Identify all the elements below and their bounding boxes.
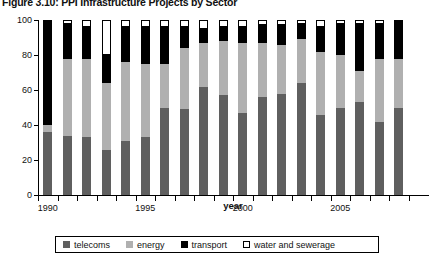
x-axis-tick-mark [350, 196, 351, 201]
bar-2007 [375, 20, 384, 195]
bar-segment-transport-2001 [258, 25, 267, 43]
bar-segment-transport-1999 [219, 27, 228, 41]
bar-segment-energy-1993 [102, 83, 111, 150]
chart-legend: telecomsenergytransportwater and sewerag… [55, 236, 379, 253]
bar-segment-transport-2000 [238, 27, 247, 43]
bar-segment-telecoms-1992 [82, 137, 91, 195]
bar-segment-transport-2003 [297, 24, 306, 40]
bar-segment-energy-1994 [121, 62, 130, 141]
y-axis-tick-label: 20 [22, 155, 32, 165]
x-axis-tick-mark [389, 196, 390, 201]
x-axis-tick-mark [370, 196, 371, 201]
bar-segment-water-and-sewerage-1998 [199, 20, 208, 29]
legend-item-energy: energy [126, 240, 165, 250]
bar-segment-transport-1998 [199, 29, 208, 43]
bar-segment-water-and-sewerage-1994 [121, 20, 130, 27]
bar-segment-transport-2004 [316, 27, 325, 52]
bar-segment-telecoms-2005 [336, 108, 345, 196]
bar-2001 [258, 20, 267, 195]
figure-title: Figure 3.10: PPI Infrastructure Projects… [2, 0, 237, 8]
bar-segment-transport-1991 [63, 24, 72, 59]
bar-segment-water-and-sewerage-2005 [336, 20, 345, 24]
legend-item-water-and-sewerage: water and sewerage [243, 240, 335, 250]
bar-2000 [238, 20, 247, 195]
bar-1999 [219, 20, 228, 195]
bar-segment-water-and-sewerage-2006 [355, 20, 364, 24]
bar-segment-energy-2008 [394, 59, 403, 108]
bar-1992 [82, 20, 91, 195]
bar-segment-transport-1996 [160, 27, 169, 64]
x-axis-tick-label-2005: 2005 [330, 203, 350, 213]
bar-segment-telecoms-1997 [180, 109, 189, 195]
x-axis-tick-label-1990: 1990 [38, 203, 58, 213]
bar-segment-telecoms-1990 [43, 132, 52, 195]
x-axis-tick-mark [214, 196, 215, 201]
bar-segment-telecoms-2006 [355, 102, 364, 195]
bar-segment-telecoms-1999 [219, 95, 228, 195]
bar-segment-water-and-sewerage-1997 [180, 20, 189, 27]
bar-segment-transport-1994 [121, 27, 130, 62]
bar-2003 [297, 20, 306, 195]
bar-segment-telecoms-2003 [297, 83, 306, 195]
bar-segment-telecoms-1998 [199, 87, 208, 196]
bar-segment-telecoms-2001 [258, 97, 267, 195]
x-axis-tick-mark [194, 196, 195, 201]
bar-segment-transport-2005 [336, 24, 345, 56]
bar-segment-energy-2007 [375, 59, 384, 122]
bar-segment-energy-2001 [258, 43, 267, 97]
bar-1993 [102, 20, 111, 195]
x-axis-tick-mark [253, 196, 254, 201]
bar-segment-telecoms-2002 [277, 94, 286, 196]
plot-area: 020406080100 1990199520002005 [38, 20, 428, 195]
bar-segment-transport-2008 [394, 20, 403, 59]
bar-1997 [180, 20, 189, 195]
legend-item-transport: transport [181, 240, 228, 250]
x-axis-tick-mark [175, 196, 176, 201]
bar-segment-telecoms-1993 [102, 150, 111, 196]
bar-segment-energy-2006 [355, 71, 364, 103]
x-axis-tick-mark [311, 196, 312, 201]
figure-ppi-infrastructure-projects-by-sector: Figure 3.10: PPI Infrastructure Projects… [0, 0, 434, 256]
x-axis-tick-mark [58, 196, 59, 201]
bar-segment-energy-1997 [180, 48, 189, 109]
bar-segment-energy-2002 [277, 45, 286, 94]
y-axis-tick-label: 100 [17, 15, 32, 25]
bar-segment-water-and-sewerage-1995 [141, 20, 150, 27]
bar-2004 [316, 20, 325, 195]
y-axis-tick-mark [34, 90, 38, 91]
y-axis-tick-label: 40 [22, 120, 32, 130]
bar-segment-water-and-sewerage-1992 [82, 20, 91, 27]
bar-segment-transport-2002 [277, 25, 286, 44]
y-axis-tick-mark [34, 20, 38, 21]
bar-segment-water-and-sewerage-2000 [238, 20, 247, 27]
bar-segment-energy-2005 [336, 55, 345, 108]
bar-2005 [336, 20, 345, 195]
bar-segment-energy-2000 [238, 43, 247, 113]
bar-segment-water-and-sewerage-1991 [63, 20, 72, 24]
bar-segment-energy-1991 [63, 59, 72, 136]
legend-item-label: transport [192, 240, 228, 250]
bar-segment-water-and-sewerage-2001 [258, 20, 267, 25]
x-axis-tick-mark [136, 196, 137, 201]
bar-1995 [141, 20, 150, 195]
legend-item-telecoms: telecoms [63, 240, 110, 250]
bar-segment-telecoms-2000 [238, 113, 247, 195]
bar-segment-energy-1990 [43, 125, 52, 132]
x-axis-tick-mark [155, 196, 156, 201]
x-axis-tick-mark [292, 196, 293, 201]
bar-2006 [355, 20, 364, 195]
bar-segment-transport-1997 [180, 27, 189, 48]
bar-segment-telecoms-2004 [316, 115, 325, 196]
y-axis-tick-mark [34, 125, 38, 126]
bar-segment-energy-2003 [297, 39, 306, 83]
legend-item-label: energy [137, 240, 165, 250]
x-axis-label: year [223, 200, 243, 211]
x-axis-tick-mark [38, 196, 39, 201]
y-axis-tick-label: 80 [22, 50, 32, 60]
bar-1991 [63, 20, 72, 195]
bar-segment-telecoms-1991 [63, 136, 72, 196]
x-axis-tick-mark [331, 196, 332, 201]
bar-segment-water-and-sewerage-2002 [277, 20, 286, 25]
energy-swatch [126, 241, 133, 248]
legend-item-label: telecoms [74, 240, 110, 250]
